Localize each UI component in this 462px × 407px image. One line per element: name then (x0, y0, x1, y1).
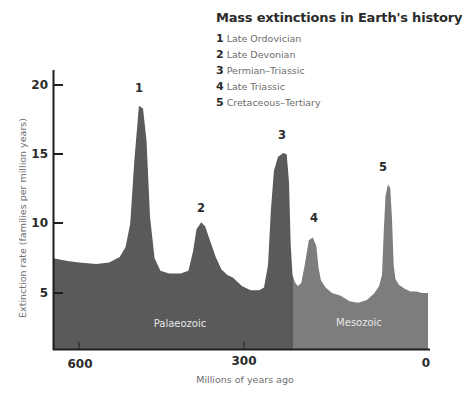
y-tick-label: 15 (31, 147, 48, 161)
y-tick-label: 20 (31, 78, 48, 92)
peak-label-2: 2 (197, 201, 205, 215)
y-tick-label: 10 (31, 216, 48, 230)
x-axis-title: Millions of years ago (196, 374, 294, 385)
peak-label-4: 4 (310, 211, 318, 225)
peak-label-1: 1 (135, 81, 143, 95)
y-tick-label: 5 (40, 286, 48, 300)
y-axis-title: Extinction rate (families per million ye… (17, 118, 28, 318)
era-label-palaeozoic: Palaeozoic (154, 318, 207, 329)
x-tick-label: 600 (67, 357, 92, 371)
x-tick-label: 0 (422, 356, 430, 370)
era-label-mesozoic: Mesozoic (336, 317, 382, 328)
x-tick-label: 300 (231, 354, 256, 368)
peak-label-3: 3 (278, 128, 286, 142)
peak-label-5: 5 (379, 160, 387, 174)
